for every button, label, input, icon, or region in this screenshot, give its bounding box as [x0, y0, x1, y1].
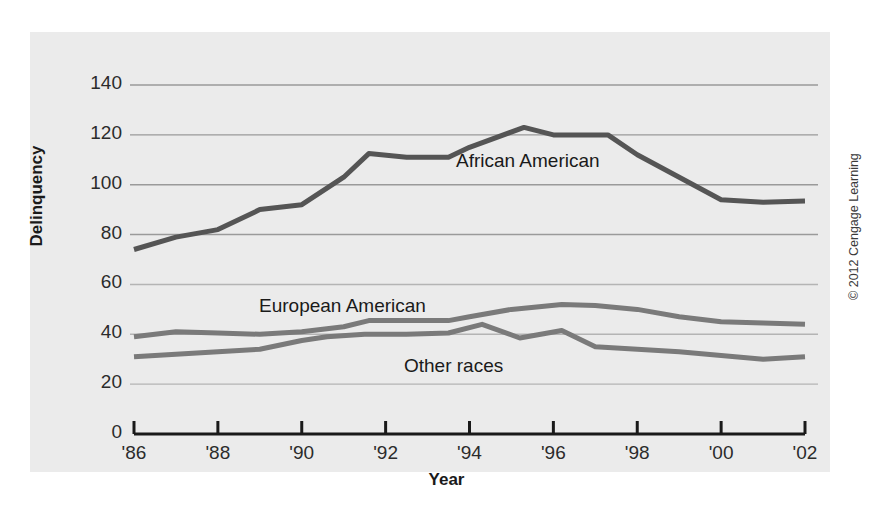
- x-tick-label: '86: [104, 442, 164, 464]
- axis-lines: [134, 421, 805, 434]
- series-label-other-races: Other races: [404, 355, 503, 377]
- y-tick-label: 140: [62, 72, 122, 94]
- y-axis-title: Delinquency: [27, 116, 47, 276]
- gridlines: [130, 85, 818, 384]
- x-tick-label: '90: [272, 442, 332, 464]
- y-tick-label: 100: [62, 172, 122, 194]
- series-label-african-american: African American: [456, 150, 600, 172]
- series-line-african-american: [134, 127, 805, 249]
- x-axis-title: Year: [0, 470, 893, 490]
- chart-figure: Delinquency Year 020406080100120140 '86'…: [0, 0, 893, 522]
- y-tick-label: 80: [62, 222, 122, 244]
- y-tick-label: 20: [62, 371, 122, 393]
- series-line-other-races: [134, 324, 805, 359]
- series-line-european-american: [134, 304, 805, 336]
- y-tick-label: 60: [62, 271, 122, 293]
- y-tick-label: 40: [62, 321, 122, 343]
- series-label-european-american: European American: [259, 295, 426, 317]
- x-tick-label: '94: [440, 442, 500, 464]
- x-tick-label: '96: [523, 442, 583, 464]
- y-tick-label: 120: [62, 122, 122, 144]
- copyright-notice: © 2012 Cengage Learning: [847, 153, 861, 300]
- y-tick-label: 0: [62, 421, 122, 443]
- x-tick-label: '00: [691, 442, 751, 464]
- x-tick-label: '92: [356, 442, 416, 464]
- x-tick-label: '02: [775, 442, 835, 464]
- x-tick-label: '88: [188, 442, 248, 464]
- x-tick-label: '98: [607, 442, 667, 464]
